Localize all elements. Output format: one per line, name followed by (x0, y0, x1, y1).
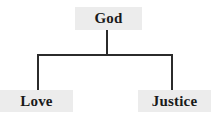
node-justice: Justice (138, 90, 211, 112)
node-justice-label: Justice (152, 94, 198, 109)
node-love: Love (0, 90, 73, 112)
node-god: God (75, 7, 142, 30)
tree-diagram: God Love Justice (0, 0, 211, 114)
node-love-label: Love (20, 94, 52, 109)
node-god-label: God (94, 11, 122, 26)
